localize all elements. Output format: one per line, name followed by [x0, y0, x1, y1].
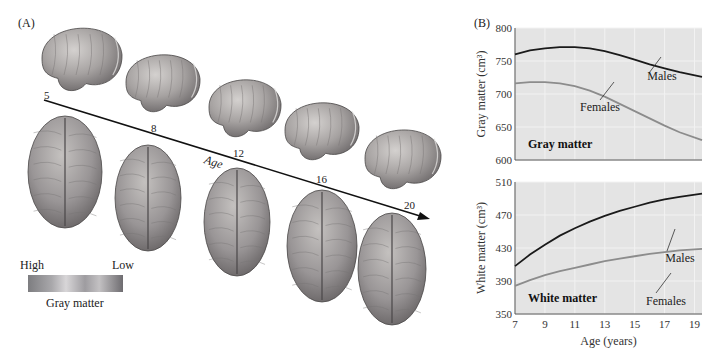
- y-tick-label: 470: [496, 209, 513, 221]
- x-tick-label: 7: [512, 318, 518, 330]
- y-tick-label: 350: [496, 308, 513, 320]
- y-tick-label: 390: [496, 275, 513, 287]
- y-tick-label: 600: [496, 154, 513, 166]
- y-axis-label: Gray matter (cm³): [474, 51, 488, 138]
- x-tick-label: 19: [689, 318, 701, 330]
- y-tick-label: 430: [496, 242, 513, 254]
- x-tick-label: 13: [599, 318, 611, 330]
- gray-matter-chart: 600650700750800Gray matter (cm³)Gray mat…: [474, 22, 702, 166]
- chart-area: 600650700750800Gray matter (cm³)Gray mat…: [0, 0, 716, 351]
- x-tick-label: 9: [542, 318, 548, 330]
- white-matter-chart: 350390430470510791113151719White matter …: [474, 176, 702, 348]
- annotation-females: Females: [580, 100, 620, 114]
- y-tick-label: 650: [496, 121, 513, 133]
- annotation-females: Females: [646, 294, 686, 308]
- plot-title: Gray matter: [528, 137, 593, 151]
- y-tick-label: 750: [496, 55, 513, 67]
- y-tick-label: 800: [496, 22, 513, 34]
- x-tick-label: 17: [659, 318, 671, 330]
- plot-title: White matter: [528, 291, 598, 305]
- x-axis-label: Age (years): [580, 334, 636, 348]
- annotation-males: Males: [665, 251, 695, 265]
- y-tick-label: 510: [496, 176, 513, 188]
- x-tick-label: 15: [629, 318, 641, 330]
- y-tick-label: 700: [496, 88, 513, 100]
- x-tick-label: 11: [570, 318, 581, 330]
- annotation-males: Males: [647, 69, 677, 83]
- y-axis-label: White matter (cm³): [474, 202, 488, 294]
